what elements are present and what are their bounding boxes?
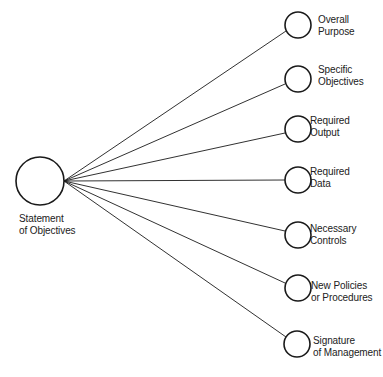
- connector-new-policies: [64, 181, 285, 283]
- root-node-circle: [16, 157, 64, 205]
- node-signature: [284, 331, 310, 357]
- label-new-policies: New Policies or Procedures: [311, 280, 373, 304]
- label-line-2: Purpose: [318, 26, 355, 38]
- node-required-data: [285, 167, 311, 193]
- connector-overall-purpose: [64, 31, 286, 181]
- label-specific-objectives: Specific Objectives: [318, 64, 364, 88]
- label-line-1: Overall: [318, 14, 355, 26]
- label-overall-purpose: Overall Purpose: [318, 14, 355, 38]
- connector-specific-objectives: [64, 84, 285, 181]
- node-overall-purpose: [285, 12, 311, 38]
- label-line-1: Signature: [313, 335, 381, 347]
- label-line-2: of Management: [313, 347, 381, 359]
- root-label-line-2: of Objectives: [19, 225, 76, 237]
- label-line-1: New Policies: [311, 280, 373, 292]
- node-required-output: [285, 116, 311, 142]
- label-required-output: Required Output: [310, 115, 350, 139]
- label-signature: Signature of Management: [313, 335, 381, 359]
- label-line-2: Output: [310, 127, 350, 139]
- label-line-2: Controls: [310, 235, 356, 247]
- node-specific-objectives: [285, 66, 311, 92]
- connector-required-data: [64, 180, 285, 181]
- label-line-1: Specific: [318, 64, 364, 76]
- label-line-1: Required: [310, 115, 350, 127]
- connector-signature: [64, 181, 286, 337]
- label-line-1: Required: [310, 166, 350, 178]
- root-label-line-1: Statement: [19, 213, 76, 225]
- label-necessary-controls: Necessary Controls: [310, 223, 356, 247]
- label-required-data: Required Data: [310, 166, 350, 190]
- label-line-1: Necessary: [310, 223, 356, 235]
- label-line-2: Objectives: [318, 76, 364, 88]
- label-line-2: or Procedures: [311, 292, 373, 304]
- node-new-policies: [285, 275, 311, 301]
- connector-lines: [64, 31, 286, 337]
- root-node-label: Statement of Objectives: [19, 213, 76, 237]
- child-nodes: [284, 12, 311, 357]
- node-necessary-controls: [285, 222, 311, 248]
- connector-necessary-controls: [64, 181, 285, 231]
- label-line-2: Data: [310, 178, 350, 190]
- connector-required-output: [64, 133, 285, 181]
